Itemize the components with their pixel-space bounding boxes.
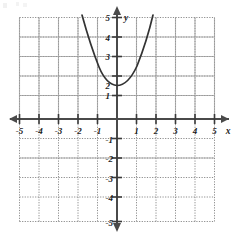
y-tick-label: 3: [105, 52, 111, 62]
y-tick-label: -4: [106, 193, 114, 203]
x-tick-label: -5: [16, 126, 24, 136]
y-tick-label: 2: [105, 81, 111, 91]
y-tick-label: -5: [106, 218, 114, 228]
y-axis-arrow-down: [113, 223, 121, 232]
x-tick-label: 5: [212, 126, 217, 136]
x-tick-label: -1: [94, 126, 102, 136]
x-tick-label: -2: [74, 126, 82, 136]
axes: [9, 6, 229, 232]
x-axis-label: x: [225, 126, 231, 136]
x-axis-arrow-left: [9, 115, 17, 123]
y-tick-label: -1: [106, 135, 114, 145]
x-tick-label: 3: [172, 126, 178, 136]
x-tick-label: 1: [134, 126, 139, 136]
y-tick-label: 4: [105, 33, 111, 43]
x-tick-label: -3: [55, 126, 63, 136]
y-tick-label: 1: [106, 91, 111, 101]
y-axis-arrow-up: [113, 6, 121, 15]
y-tick-label: 5: [106, 13, 111, 23]
x-tick-label: 2: [153, 126, 159, 136]
x-tick-label: -4: [35, 126, 43, 136]
y-tick-label: -2: [106, 154, 114, 164]
x-axis-arrow-right: [221, 115, 229, 123]
graph-figure: -5 -4 -3 -2 -1 1 2 3 4 5 5 4 3 2 1 -1 -2…: [0, 0, 238, 236]
y-axis-label: y: [123, 13, 129, 23]
coordinate-plane: -5 -4 -3 -2 -1 1 2 3 4 5 5 4 3 2 1 -1 -2…: [0, 0, 238, 236]
y-tick-labels: 5 4 3 2 1 -1 -2 -3 -4 -5: [105, 13, 114, 228]
y-tick-label: -3: [106, 174, 114, 184]
x-tick-label: 4: [192, 126, 198, 136]
